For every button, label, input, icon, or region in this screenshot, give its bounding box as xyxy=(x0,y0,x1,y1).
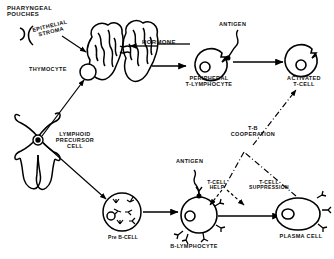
bone-marrow-shape xyxy=(15,113,60,189)
t-cell-suppression-label: T-CELL SUPPRESSION xyxy=(240,180,298,191)
plasma-cell-label: PLASMA CELL xyxy=(272,234,330,240)
thymus-shape xyxy=(87,21,158,82)
plasma-cell-shape xyxy=(276,191,331,232)
t-cell-suppression-dashed-arrow xyxy=(227,190,244,205)
pre-b-cell-label: Pre B-CELL xyxy=(101,235,145,240)
thymocyte-shape xyxy=(80,64,96,80)
t-cell-help-label: T-CELL HELP xyxy=(199,180,235,191)
antigen-top-squiggle xyxy=(226,30,238,60)
antigen-top-label: ANTIGEN xyxy=(219,22,246,28)
hormone-label: HORMONE xyxy=(142,39,176,45)
b-lymphocyte-label: B-LYMPHOCYTE xyxy=(158,244,230,250)
diagram-canvas: PHARYNGEAL POUCHES EPITHELIAL STROMA THY… xyxy=(0,0,334,259)
peripheral-t-lymphocyte-label: PERIPHERAL T-LYMPHOCYTE xyxy=(176,76,242,88)
lymphoid-precursor-cell-label: LYMPHOID PRECURSOR CELL xyxy=(46,132,104,150)
activated-t-cell-label: ACTIVATED T-CELL xyxy=(276,76,332,88)
pharyngeal-pouches-label: PHARYNGEAL POUCHES xyxy=(7,5,52,18)
pre-b-cell-shape xyxy=(103,193,141,231)
t-b-cooperation-label: T-B COOPERATION xyxy=(222,126,284,138)
activated-t-cell-shape xyxy=(285,45,317,77)
pharyngeal-pouches-shape xyxy=(20,26,33,45)
lymphoid-precursor-cell-shape xyxy=(33,135,43,145)
antigen-bottom-label: ANTIGEN xyxy=(176,159,203,165)
arrow-stroma-to-thymocyte xyxy=(62,36,86,52)
thymocyte-label: THYMOCYTE xyxy=(29,67,67,73)
arrow-precursor-to-thymocyte xyxy=(42,80,84,136)
